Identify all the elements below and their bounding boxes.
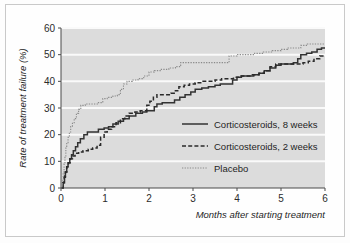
x-tick-label-6: 6 [322,193,328,204]
y-tick-label-50: 50 [44,49,56,60]
x-tick-label-3: 3 [190,193,196,204]
x-axis: 0123456 [58,188,328,204]
x-tick-label-0: 0 [58,193,64,204]
x-axis-title: Months after starting treatment [196,209,326,220]
legend-label-1: Corticosteroids, 2 weeks [214,141,318,152]
figure-container: 0102030405060 0123456 Rate of treatment … [0,0,350,243]
x-tick-label-2: 2 [146,193,152,204]
y-tick-label-60: 60 [44,23,56,34]
x-tick-label-4: 4 [234,193,240,204]
chart-canvas: 0102030405060 0123456 Rate of treatment … [0,0,350,243]
legend-label-0: Corticosteroids, 8 weeks [214,119,318,130]
y-tick-label-30: 30 [44,103,56,114]
y-tick-label-40: 40 [44,76,56,87]
x-tick-label-5: 5 [278,193,284,204]
y-axis: 0102030405060 [44,23,61,194]
legend-label-2: Placebo [214,163,248,174]
y-tick-label-0: 0 [49,183,55,194]
y-tick-label-20: 20 [44,129,56,140]
x-tick-label-1: 1 [102,193,108,204]
y-axis-title: Rate of treatment failure (%) [17,48,28,167]
y-tick-label-10: 10 [44,156,56,167]
